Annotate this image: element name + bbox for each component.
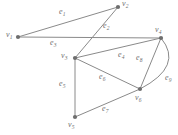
vertex-v2-label: v2	[122, 0, 128, 8]
edge-e2	[75, 7, 118, 58]
edge-e1-subscript: 1	[63, 11, 66, 17]
edge-e8	[140, 38, 161, 89]
edge-e8-subscript: 8	[140, 57, 143, 63]
vertex-v1-label: v1	[6, 31, 12, 39]
edge-e2-subscript: 2	[107, 25, 110, 31]
edge-e4-label: e4	[118, 51, 124, 59]
vertex-v5-subscript: 5	[72, 124, 75, 130]
vertex-v3-label: v3	[61, 52, 67, 60]
edge-e2-label: e2	[103, 22, 109, 30]
edge-e1-label: e1	[59, 8, 65, 16]
vertex-v1-subscript: 1	[10, 34, 13, 40]
vertex-v3	[73, 56, 77, 60]
vertex-v6-subscript: 6	[139, 97, 142, 103]
edge-e7-label: e7	[102, 105, 108, 113]
vertex-v3-subscript: 3	[65, 55, 68, 61]
edge-e3-subscript: 3	[54, 42, 57, 48]
edge-e3	[18, 37, 161, 38]
edge-e9-subscript: 9	[169, 77, 172, 83]
vertex-v4-subscript: 4	[159, 29, 162, 35]
edge-e6-subscript: 6	[103, 76, 106, 82]
vertex-v4	[159, 36, 163, 40]
edge-e5-subscript: 5	[63, 83, 66, 89]
edges-group	[18, 7, 169, 117]
edge-e4-subscript: 4	[122, 54, 125, 60]
vertex-v1	[16, 35, 20, 39]
edge-e9-label: e9	[165, 74, 171, 82]
edge-e8-label: e8	[136, 54, 142, 62]
vertex-v5-label: v5	[68, 121, 74, 129]
edge-e3-label: e3	[50, 39, 56, 47]
edge-e6-label: e6	[99, 73, 105, 81]
graph-diagram: e1e2e3e4e5e6e7e8e9v1v2v3v4v5v6	[0, 0, 178, 135]
graph-canvas	[0, 0, 178, 135]
vertex-v2	[116, 5, 120, 9]
vertex-v2-subscript: 2	[126, 3, 129, 9]
edge-e5-label: e5	[59, 80, 65, 88]
edge-e7-subscript: 7	[106, 108, 109, 114]
vertex-v5	[73, 115, 77, 119]
vertex-v6-label: v6	[135, 94, 141, 102]
vertex-v6	[138, 87, 142, 91]
vertex-v4-label: v4	[155, 26, 161, 34]
edge-e6	[75, 58, 140, 89]
